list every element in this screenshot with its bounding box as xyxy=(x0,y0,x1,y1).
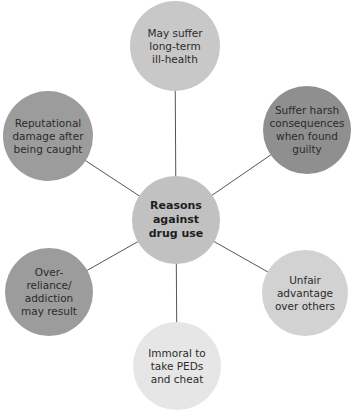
node-label: Reputational damage after being caught xyxy=(12,117,83,156)
node-label: May suffer long-term ill-health xyxy=(147,27,202,66)
node-bottom-left: Over-reliance/ addiction may result xyxy=(5,248,93,336)
node-bottom: Immoral to take PEDs and cheat xyxy=(133,322,221,410)
center-label: Reasons against drug use xyxy=(149,199,204,241)
corner-artifact xyxy=(24,0,38,5)
node-top-right: Suffer harsh consequences when found gui… xyxy=(263,86,351,174)
node-top-left: Reputational damage after being caught xyxy=(3,91,93,181)
node-label: Immoral to take PEDs and cheat xyxy=(148,347,206,386)
node-label: Over-reliance/ addiction may result xyxy=(13,266,85,318)
node-label: Suffer harsh consequences when found gui… xyxy=(270,104,345,156)
node-center: Reasons against drug use xyxy=(132,176,220,264)
node-bottom-right: Unfair advantage over others xyxy=(262,250,348,336)
node-label: Unfair advantage over others xyxy=(275,274,335,313)
node-top: May suffer long-term ill-health xyxy=(130,1,220,91)
